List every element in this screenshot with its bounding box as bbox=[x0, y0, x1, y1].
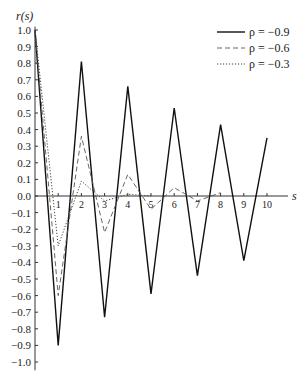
autocorrelation-chart: 1.00.90.80.70.60.50.40.30.20.10.0−0.1−0.… bbox=[0, 0, 308, 381]
y-tick-label: 0.6 bbox=[17, 90, 31, 102]
x-tick-label: 1 bbox=[56, 199, 61, 210]
y-tick-label: −0.9 bbox=[11, 339, 31, 351]
x-tick-label: 9 bbox=[241, 199, 246, 210]
series-line-solid bbox=[35, 30, 267, 345]
y-tick-label: 0.9 bbox=[17, 41, 31, 53]
y-tick-label: −0.1 bbox=[11, 207, 31, 219]
y-tick-label: 0.5 bbox=[17, 107, 31, 119]
x-tick-label: 2 bbox=[79, 199, 84, 210]
legend: ρ = −0.9ρ = −0.6ρ = −0.3 bbox=[217, 25, 290, 71]
x-tick-label: 10 bbox=[262, 199, 272, 210]
y-tick-label: 0.1 bbox=[17, 173, 31, 185]
y-tick-label: 0.4 bbox=[17, 124, 31, 136]
y-axis: 1.00.90.80.70.60.50.40.30.20.10.0−0.1−0.… bbox=[11, 24, 38, 370]
x-axis-label: s bbox=[292, 189, 297, 203]
y-tick-label: −0.6 bbox=[11, 290, 31, 302]
x-tick-label: 5 bbox=[149, 199, 154, 210]
x-tick-label: 4 bbox=[125, 199, 130, 210]
plot-series bbox=[35, 30, 267, 345]
x-tick-label: 6 bbox=[172, 199, 177, 210]
series-line-dashed bbox=[35, 30, 221, 296]
y-tick-label: −0.2 bbox=[11, 223, 31, 235]
y-tick-label: −1.0 bbox=[11, 356, 31, 368]
legend-label: ρ = −0.3 bbox=[249, 57, 290, 71]
y-axis-label: r(s) bbox=[16, 9, 33, 23]
y-tick-label: 0.0 bbox=[17, 190, 31, 202]
y-tick-label: −0.8 bbox=[11, 323, 31, 335]
y-tick-label: 1.0 bbox=[17, 24, 31, 36]
y-tick-label: 0.2 bbox=[17, 157, 31, 169]
y-tick-label: 0.7 bbox=[17, 74, 31, 86]
y-tick-label: −0.3 bbox=[11, 240, 31, 252]
y-tick-label: −0.5 bbox=[11, 273, 31, 285]
y-tick-label: −0.7 bbox=[11, 306, 31, 318]
legend-label: ρ = −0.9 bbox=[249, 25, 290, 39]
y-tick-label: 0.3 bbox=[17, 140, 31, 152]
x-tick-label: 8 bbox=[218, 199, 223, 210]
y-tick-label: −0.4 bbox=[11, 256, 31, 268]
y-tick-label: 0.8 bbox=[17, 57, 31, 69]
legend-label: ρ = −0.6 bbox=[249, 41, 290, 55]
